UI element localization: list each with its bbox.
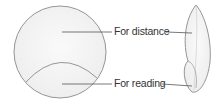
bifocal-diagram <box>0 0 224 103</box>
label-for-distance: For distance <box>114 26 169 37</box>
side-view-lens <box>184 5 210 92</box>
label-for-reading: For reading <box>114 78 166 89</box>
side-lens-outline <box>184 5 210 92</box>
